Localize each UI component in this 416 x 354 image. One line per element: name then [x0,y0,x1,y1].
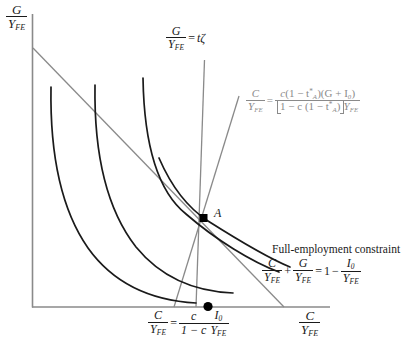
consumption-den-y-sub: FE [350,106,359,113]
fe-g-denominator: Y [295,270,302,284]
tax-revenue-line-label: G YFE =tζ [166,26,205,53]
point-a-marker [200,214,208,222]
x-axis-denominator-sub: FE [308,330,318,339]
intercept-equation: C YFE = c 1 − c I0 YFE [148,310,229,339]
y-axis-label: G YFE [6,4,27,34]
intercept-lhs-denominator-sub: FE [157,328,167,337]
consumption-den-open: 1 − c (1 − t [280,100,329,112]
tax-revenue-line [196,60,205,307]
indifference-curve-1 [51,87,196,303]
consumption-num-paren3: ) [351,87,355,99]
tax-line-denominator-sub: FE [175,43,185,52]
fe-minus: − [330,264,341,278]
fe-c-denominator: Y [264,270,271,284]
full-employment-constraint-equation: C YFE + G YFE =1− I0 YFE [262,258,361,287]
fe-c-numerator: C [262,257,282,271]
y-axis-numerator: G [6,3,27,18]
consumption-num-paren1: (1 − t [285,87,309,99]
tax-line-zeta: ζ [200,31,205,45]
x-axis-label: C YFE [299,310,320,340]
fe-i-denominator-sub: FE [349,277,359,286]
tax-line-numerator: G [166,25,186,39]
y-axis-denominator-sub: FE [15,24,25,33]
intercept-lhs-denominator: Y [150,322,157,336]
intercept-equals: = [168,316,179,330]
consumption-lhs-denominator-sub: FE [254,106,263,113]
consumption-function-line [174,96,239,307]
fe-c-denominator-sub: FE [271,276,281,285]
indifference-curve-2 [95,85,233,293]
fe-g-denominator-sub: FE [302,276,312,285]
full-employment-constraint-title: Full-employment constraint [272,243,400,255]
intercept-lhs-numerator: C [148,309,168,323]
intercept-i-denominator-sub: FE [217,329,227,338]
indifference-curve-4-optimal [159,158,290,267]
consumption-den-close: ) [337,100,341,112]
consumption-num-paren2: )(G + I [317,87,348,99]
fe-i-numerator-sub: 0 [351,262,355,271]
fe-g-numerator: G [293,257,313,271]
point-a-label: A [214,207,221,220]
consumption-den-bracket: 1 − c (1 − t*A) [277,101,343,113]
tax-line-equals: = [186,31,197,45]
tax-line-denominator: Y [168,37,175,51]
economics-diagram [0,0,416,354]
intercept-frac-denominator: 1 − c [179,324,208,337]
fe-plus: + [282,264,293,278]
intercept-frac-numerator: c [179,310,208,324]
intercept-i-numerator-sub: 0 [219,314,223,323]
fe-equals: = [313,264,324,278]
consumption-function-equation: C YFE = c(1 − t*A)(G + I0) 1 − c (1 − t*… [246,89,360,114]
x-axis-numerator: C [299,309,320,324]
consumption-equals: = [265,94,275,106]
